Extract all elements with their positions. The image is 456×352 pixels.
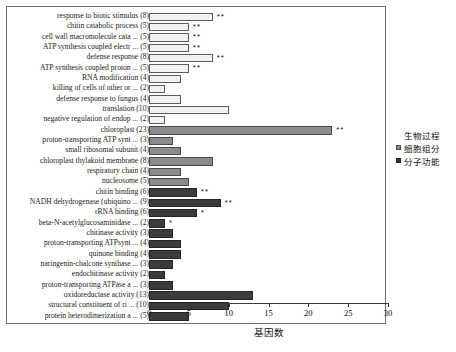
category-label: translation (10) xyxy=(0,104,149,114)
legend-swatch-icon xyxy=(396,158,401,163)
category-label: proton-transporting ATP synt ... (3) xyxy=(0,135,149,145)
bar-track: ** xyxy=(149,44,386,53)
category-label: ATP synthesis coupled proton ... (5) xyxy=(0,63,149,73)
bar-mf[interactable] xyxy=(149,250,181,258)
go-enrichment-chart: response to biotic stimulus (8)**chitin … xyxy=(0,0,456,352)
bar-track xyxy=(149,147,386,156)
x-axis-tick-label: 25 xyxy=(336,308,360,318)
category-label: chitin binding (6) xyxy=(0,187,149,197)
x-axis-tick xyxy=(308,303,309,307)
bar-track xyxy=(149,240,386,249)
category-label: ATP synthesis coupled electr ... (5) xyxy=(0,42,149,52)
category-label: small ribosomal subunit (4) xyxy=(0,145,149,155)
legend-label: 生物过程 xyxy=(404,129,440,141)
legend: 生物过程细胞组分分子功能 xyxy=(396,128,454,167)
bar-bp[interactable] xyxy=(149,75,181,83)
category-label: structural constituent of ri ... (10) xyxy=(0,300,149,310)
bar-mf[interactable] xyxy=(149,188,197,196)
category-label: oxidoreductase activity (13) xyxy=(0,290,149,300)
bar-bp[interactable] xyxy=(149,33,189,41)
bar-mf[interactable] xyxy=(149,219,165,227)
bar-bp[interactable] xyxy=(149,106,229,114)
category-label: quinone binding (4) xyxy=(0,249,149,259)
category-label: chitinase activity (3) xyxy=(0,228,149,238)
legend-item-bp[interactable]: 生物过程 xyxy=(396,128,454,141)
bar-cc[interactable] xyxy=(149,126,332,134)
bar-track xyxy=(149,291,386,300)
bar-bp[interactable] xyxy=(149,85,165,93)
x-axis-title: 基因数 xyxy=(149,325,388,339)
significance-marker: ** xyxy=(336,125,344,135)
bar-track xyxy=(149,229,386,238)
bar-cc[interactable] xyxy=(149,168,181,176)
bar-mf[interactable] xyxy=(149,209,197,217)
bar-bp[interactable] xyxy=(149,116,165,124)
bar-mf[interactable] xyxy=(149,240,181,248)
category-label: respiratory chain (4) xyxy=(0,166,149,176)
bar-track xyxy=(149,116,386,125)
x-axis-tick xyxy=(348,303,349,307)
significance-marker: ** xyxy=(193,63,201,73)
bar-bp[interactable] xyxy=(149,54,213,62)
bar-track xyxy=(149,271,386,280)
bar-track xyxy=(149,250,386,259)
bar-track xyxy=(149,260,386,269)
legend-item-mf[interactable]: 分子功能 xyxy=(396,154,454,167)
significance-marker: * xyxy=(169,218,173,228)
significance-marker: ** xyxy=(201,187,209,197)
bar-track: ** xyxy=(149,54,386,63)
bar-track xyxy=(149,157,386,166)
bar-cc[interactable] xyxy=(149,147,181,155)
bar-bp[interactable] xyxy=(149,64,189,72)
x-axis-tick xyxy=(269,303,270,307)
bar-bp[interactable] xyxy=(149,44,189,52)
category-label: protein heterodimerization a ... (5) xyxy=(0,311,149,321)
category-label: defense response (8) xyxy=(0,52,149,62)
significance-marker: ** xyxy=(217,53,225,63)
bar-track xyxy=(149,75,386,84)
bar-track: ** xyxy=(149,126,386,135)
bar-bp[interactable] xyxy=(149,95,181,103)
legend-swatch-icon xyxy=(396,132,401,137)
bar-track: * xyxy=(149,209,386,218)
category-label: naringenin-chalcone synthase ... (3) xyxy=(0,259,149,269)
bar-cc[interactable] xyxy=(149,178,189,186)
bar-mf[interactable] xyxy=(149,281,173,289)
category-label: rRNA binding (6) xyxy=(0,207,149,217)
bar-mf[interactable] xyxy=(149,199,221,207)
x-axis-tick-label: 10 xyxy=(217,308,241,318)
bar-mf[interactable] xyxy=(149,271,165,279)
x-axis-tick-label: 30 xyxy=(376,308,400,318)
significance-marker: ** xyxy=(225,198,233,208)
x-axis-tick-label: 0 xyxy=(137,308,161,318)
legend-item-cc[interactable]: 细胞组分 xyxy=(396,141,454,154)
bar-track: ** xyxy=(149,23,386,32)
category-label: chloroplast thylakoid membrane (8) xyxy=(0,156,149,166)
category-label: beta-N-acetylglucosaminidase ... (2) xyxy=(0,218,149,228)
bar-mf[interactable] xyxy=(149,260,173,268)
bar-cc[interactable] xyxy=(149,137,173,145)
legend-swatch-icon xyxy=(396,145,401,150)
bar-rows-container: response to biotic stimulus (8)**chitin … xyxy=(6,12,386,302)
category-label: proton-transporting ATPsynt ... (4) xyxy=(0,238,149,248)
category-label: RNA modification (4) xyxy=(0,73,149,83)
bar-track xyxy=(149,95,386,104)
category-label: cell wall macromolecule cata ... (5) xyxy=(0,32,149,42)
bar-track: * xyxy=(149,219,386,228)
bar-cc[interactable] xyxy=(149,157,213,165)
bar-track: ** xyxy=(149,13,386,22)
category-label: NADH dehydrogenase (ubiquino ... (9) xyxy=(0,197,149,207)
category-label: response to biotic stimulus (8) xyxy=(0,11,149,21)
x-axis-tick xyxy=(388,303,389,307)
x-axis-tick xyxy=(149,303,150,307)
x-axis-tick-label: 15 xyxy=(257,308,281,318)
category-label: proton-transporting ATPase a ... (3) xyxy=(0,280,149,290)
bar-mf[interactable] xyxy=(149,291,253,299)
category-label: endochitinase activity (2) xyxy=(0,269,149,279)
bar-bp[interactable] xyxy=(149,23,189,31)
bar-mf[interactable] xyxy=(149,229,173,237)
bar-bp[interactable] xyxy=(149,13,213,21)
legend-label: 细胞组分 xyxy=(404,142,440,154)
bar-track xyxy=(149,85,386,94)
significance-marker: ** xyxy=(193,22,201,32)
